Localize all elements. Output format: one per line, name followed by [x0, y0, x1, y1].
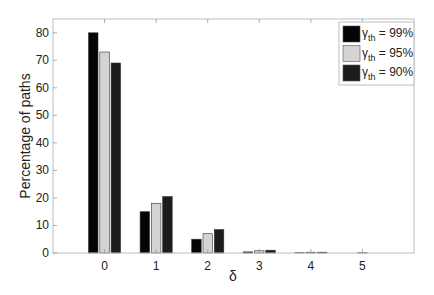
y-tick-label: 40 [36, 136, 50, 150]
bar [140, 212, 150, 253]
bar [214, 230, 224, 253]
x-axis-label: δ [229, 268, 237, 284]
bar [192, 239, 202, 253]
x-tick-label: 2 [204, 259, 211, 273]
y-tick-label: 10 [36, 218, 50, 232]
bar [163, 197, 173, 253]
y-axis-label: Percentage of paths [17, 73, 33, 198]
bar [111, 63, 121, 253]
y-tick-label: 20 [36, 191, 50, 205]
y-tick-label: 60 [36, 81, 50, 95]
legend-swatch [343, 65, 360, 81]
x-tick-label: 0 [101, 259, 108, 273]
x-tick-label: 1 [153, 259, 160, 273]
legend: γth = 99%γth = 95%γth = 90% [339, 22, 414, 85]
y-tick-label: 80 [36, 26, 50, 40]
x-tick-label: 5 [359, 259, 366, 273]
bar-chart: 01020304050607080 012345 Percentage of p… [0, 0, 434, 295]
x-tick-label: 3 [256, 259, 263, 273]
y-tick-label: 50 [36, 108, 50, 122]
plot-area [89, 33, 368, 253]
x-tick-label: 4 [308, 259, 315, 273]
legend-swatch [343, 46, 360, 62]
y-tick-label: 0 [42, 246, 49, 260]
y-axis-ticks: 01020304050607080 [36, 26, 57, 260]
y-tick-label: 30 [36, 163, 50, 177]
bar [89, 33, 99, 253]
y-tick-label: 70 [36, 53, 50, 67]
legend-swatch [343, 26, 360, 42]
bar [100, 52, 110, 253]
bar [151, 203, 161, 253]
